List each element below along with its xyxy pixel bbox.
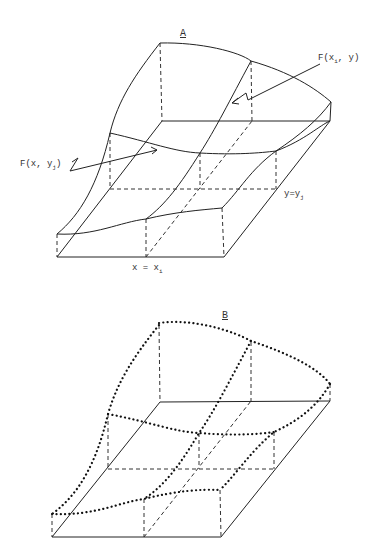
panel-a-arrow-f-x-yj <box>70 147 157 171</box>
panel-b: B <box>52 310 330 537</box>
label-f-x-yj: F(x, yj) <box>20 159 61 171</box>
label-f-xi-y: F(xi, y) <box>318 53 359 65</box>
surface-diagrams: A <box>0 0 373 560</box>
panel-b-base <box>52 401 330 537</box>
panel-a-title: A <box>180 28 186 39</box>
panel-b-title: B <box>222 310 228 321</box>
label-y-eq-yj: y=yj <box>284 189 304 201</box>
panel-b-verticals <box>52 325 330 537</box>
panel-a: A <box>20 28 359 275</box>
label-x-eq-xi: x = xi <box>132 263 163 275</box>
panel-a-surface <box>57 43 331 234</box>
